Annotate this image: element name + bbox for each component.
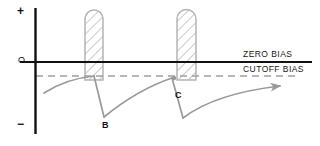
cutoff-bias-label: CUTOFF BIAS [243, 65, 304, 74]
axis-label-minus: − [17, 118, 24, 130]
pulse-bar-1 [85, 10, 103, 80]
point-label-c: C [175, 91, 182, 100]
pulse-bar-1-shape [85, 10, 103, 80]
zero-bias-label: ZERO BIAS [243, 50, 292, 59]
waveform-diagram-figure: + O − ZERO BIAS CUTOFF BIAS B C [0, 0, 320, 146]
curve-segment-3 [183, 86, 280, 118]
curve-segment-2 [104, 78, 172, 117]
axis-label-plus: + [17, 5, 24, 17]
pulse-bar-2-shape [177, 10, 196, 81]
curve-dropoff-1 [94, 76, 104, 117]
bias-sawtooth-curve [44, 76, 280, 118]
axis-label-origin: O [18, 56, 25, 65]
pulse-bar-2 [177, 10, 196, 81]
point-label-b: B [102, 121, 109, 130]
